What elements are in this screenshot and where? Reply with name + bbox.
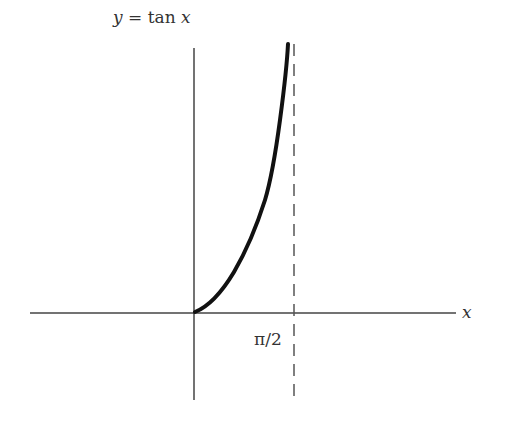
tan-curve [195, 44, 288, 312]
graph-title: y = tan x [112, 7, 191, 27]
tan-graph: y = tan x x π/2 [0, 0, 506, 424]
x-axis-label: x [462, 302, 472, 322]
asymptote-label: π/2 [254, 329, 282, 349]
